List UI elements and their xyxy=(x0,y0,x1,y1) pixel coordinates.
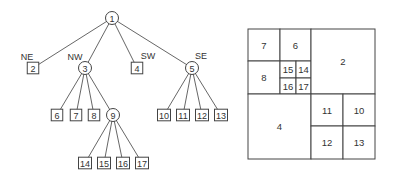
quadrant-label-nw: NW xyxy=(68,52,83,62)
tree-nodes: 1234567891011121314151617 xyxy=(27,12,227,169)
tree-edge xyxy=(113,115,142,163)
tree-node-17: 17 xyxy=(136,157,149,169)
tree-node-3: 3 xyxy=(79,62,92,75)
quad-cell-2: 2 xyxy=(311,29,375,94)
quad-cell-15: 15 xyxy=(280,61,296,78)
cell-label: 15 xyxy=(283,64,294,75)
quad-cell-10: 10 xyxy=(343,94,375,126)
tree-edge xyxy=(113,115,123,163)
tree-node-11: 11 xyxy=(177,109,190,121)
node-label: 6 xyxy=(54,111,59,121)
tree-node-8: 8 xyxy=(88,109,100,121)
quad-cell-16: 16 xyxy=(280,78,296,94)
quadtree-diagram: 1234567891011121314151617 NENWSWSE 76815… xyxy=(0,0,393,177)
quadrant-label-sw: SW xyxy=(141,51,156,61)
tree-node-15: 15 xyxy=(98,157,111,169)
tree-node-5: 5 xyxy=(186,62,199,75)
node-label: 11 xyxy=(178,111,187,121)
node-label: 17 xyxy=(137,159,147,169)
tree-node-13: 13 xyxy=(215,109,228,121)
cell-label: 17 xyxy=(298,81,309,92)
quad-cell-8: 8 xyxy=(248,61,280,94)
quadrant-label-se: SE xyxy=(195,51,207,61)
tree-edge xyxy=(192,68,221,115)
cell-label: 12 xyxy=(322,137,333,148)
node-label: 13 xyxy=(216,111,226,121)
node-label: 9 xyxy=(110,111,115,121)
cell-label: 14 xyxy=(298,64,309,75)
node-label: 15 xyxy=(99,159,109,169)
tree-node-4: 4 xyxy=(131,62,143,74)
tree-node-12: 12 xyxy=(196,109,209,121)
cell-label: 4 xyxy=(277,121,282,132)
tree-edge xyxy=(85,18,112,68)
node-label: 5 xyxy=(189,64,194,74)
quad-cell-6: 6 xyxy=(280,29,311,61)
quad-cell-14: 14 xyxy=(296,61,311,78)
tree-node-14: 14 xyxy=(79,157,92,169)
quad-cell-4: 4 xyxy=(248,94,311,159)
tree-node-9: 9 xyxy=(107,109,120,122)
cell-label: 6 xyxy=(293,40,298,51)
tree-node-6: 6 xyxy=(51,109,63,121)
node-label: 12 xyxy=(197,111,207,121)
node-label: 16 xyxy=(118,159,128,169)
tree-node-10: 10 xyxy=(158,109,171,121)
cell-label: 13 xyxy=(354,137,365,148)
quad-cell-7: 7 xyxy=(248,29,280,61)
tree-edges xyxy=(33,18,221,163)
quad-cell-17: 17 xyxy=(296,78,311,94)
node-label: 7 xyxy=(73,111,78,121)
tree-node-2: 2 xyxy=(27,62,39,74)
quadrant-label-ne: NE xyxy=(21,52,34,62)
node-label: 3 xyxy=(82,64,87,74)
quadtree-grid: 768151416172411101213 xyxy=(248,29,375,159)
cell-label: 2 xyxy=(340,56,345,67)
quad-cell-13: 13 xyxy=(343,126,375,159)
cell-label: 16 xyxy=(283,81,294,92)
cell-label: 11 xyxy=(322,105,332,116)
node-label: 1 xyxy=(109,14,114,24)
quad-cell-11: 11 xyxy=(311,94,343,126)
quad-cell-12: 12 xyxy=(311,126,343,159)
node-label: 4 xyxy=(134,64,139,74)
tree-edge xyxy=(192,68,202,115)
tree-node-7: 7 xyxy=(70,109,82,121)
cell-label: 8 xyxy=(261,72,266,83)
node-label: 2 xyxy=(30,64,35,74)
tree-node-16: 16 xyxy=(117,157,130,169)
tree-node-1: 1 xyxy=(106,12,119,25)
node-label: 10 xyxy=(159,111,169,121)
node-label: 8 xyxy=(91,111,96,121)
node-label: 14 xyxy=(80,159,90,169)
cell-label: 10 xyxy=(354,105,365,116)
cell-label: 7 xyxy=(261,40,266,51)
